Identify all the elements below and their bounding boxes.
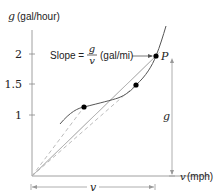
- v-dimension-arrow-left: [32, 185, 37, 189]
- g-dimension-arrow-top: [170, 58, 174, 63]
- fuel-curve: [60, 26, 166, 124]
- curve-point-2: [133, 82, 138, 87]
- y-tick-label-1-5: 1.5: [5, 78, 23, 91]
- x-axis-unit: (mph): [187, 171, 213, 182]
- y-axis-var: g: [8, 10, 15, 23]
- slope-denominator: v: [89, 55, 95, 66]
- dashed-line-point-2: [32, 85, 136, 176]
- point-p-label: P: [160, 50, 169, 63]
- slope-numerator: g: [89, 43, 95, 54]
- y-tick-label-2: 2: [15, 48, 22, 61]
- g-dimension-arrow-bottom: [170, 170, 174, 175]
- dashed-line-point-1: [32, 107, 84, 176]
- slope-label-prefix: Slope =: [50, 50, 84, 61]
- v-dimension-label: v: [90, 181, 97, 194]
- curve-point-1: [81, 104, 86, 109]
- secondary-line-to-p: [32, 52, 160, 176]
- v-dimension-arrow-right: [149, 185, 154, 189]
- x-axis-var: v: [180, 171, 186, 182]
- slope-unit: (gal/mi): [100, 50, 133, 61]
- point-p: [153, 53, 158, 58]
- fuel-consumption-diagram: g (gal/hour) 2 1.5 1 Slope = g v (gal/mi…: [0, 0, 218, 196]
- y-tick-label-1: 1: [15, 109, 22, 122]
- y-axis-unit: (gal/hour): [17, 11, 60, 22]
- slope-arrow-head: [148, 54, 153, 58]
- g-dimension-label: g: [163, 110, 170, 123]
